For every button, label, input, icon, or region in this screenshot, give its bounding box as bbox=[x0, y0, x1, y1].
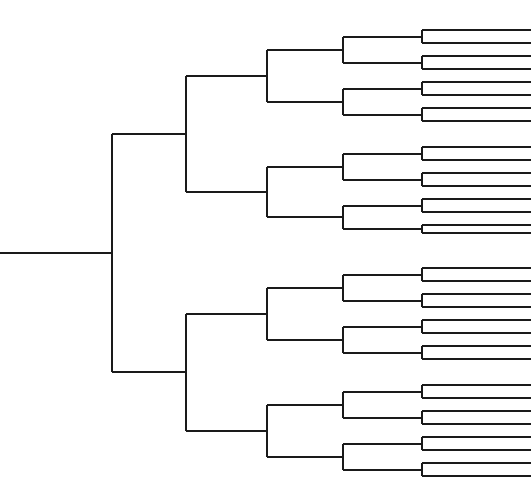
dendrogram-canvas bbox=[0, 0, 531, 479]
dendrogram-diagram bbox=[0, 0, 531, 479]
diagram-background bbox=[0, 0, 531, 479]
